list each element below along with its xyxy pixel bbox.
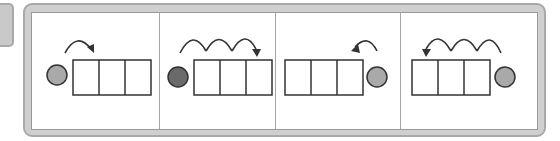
three-cell-box	[73, 60, 151, 95]
panel-2-graphic	[160, 13, 277, 137]
jump-arrow-icon	[351, 41, 377, 53]
jump-arrows-icon	[422, 39, 501, 57]
counter-circle	[495, 67, 515, 87]
panel-1-graphic	[32, 13, 161, 137]
diagram-frame	[23, 3, 546, 137]
jump-arrows-icon	[180, 39, 261, 57]
three-cell-box	[285, 60, 363, 95]
panel-4	[401, 13, 537, 129]
panel-2	[160, 13, 276, 129]
three-cell-box	[412, 60, 490, 95]
three-cell-box	[194, 60, 272, 95]
panel-3-graphic	[276, 13, 403, 137]
panel-3	[276, 13, 402, 129]
counter-circle	[168, 67, 188, 87]
panel-4-graphic	[401, 13, 538, 137]
side-tab[interactable]	[0, 3, 14, 47]
panel-row	[31, 12, 538, 130]
counter-circle	[367, 67, 387, 87]
counter-circle	[47, 65, 67, 85]
jump-arrow-icon	[65, 41, 94, 53]
panel-1	[32, 13, 160, 129]
